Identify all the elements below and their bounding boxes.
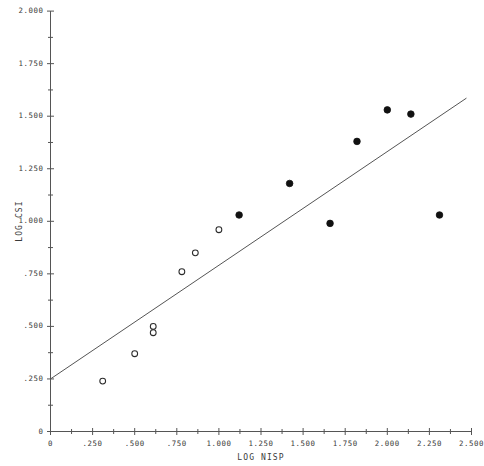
x-axis-tick-label: 2.500 <box>459 440 484 447</box>
y-axis-tick-label: 1.500 <box>19 112 44 119</box>
x-axis-tick-label: 2.000 <box>375 440 400 447</box>
y-axis-tick-label: 1.750 <box>19 60 44 67</box>
y-axis-tick-label: 1.250 <box>19 165 44 172</box>
x-axis-tick-label: 2.250 <box>417 440 442 447</box>
data-point-open <box>150 330 156 336</box>
y-axis-title: LOG CSI <box>16 201 24 242</box>
data-point-filled <box>354 138 361 145</box>
data-point-filled <box>286 180 293 187</box>
data-point-filled <box>236 212 243 219</box>
x-axis-tick-label: 1.500 <box>291 440 316 447</box>
x-axis-tick-label: .250 <box>83 440 103 447</box>
x-axis-tick-label: .750 <box>167 440 187 447</box>
y-axis-tick-label: 2.000 <box>19 7 44 14</box>
data-point-filled <box>384 107 391 114</box>
data-point-filled <box>408 111 415 118</box>
x-axis-tick-label: 1.750 <box>333 440 358 447</box>
data-point-open <box>150 324 156 330</box>
data-point-filled <box>327 220 334 227</box>
y-axis-tick-label: .250 <box>24 375 44 382</box>
data-point-open <box>179 269 185 275</box>
data-point-open <box>100 378 106 384</box>
y-axis-tick-label: .750 <box>24 270 44 277</box>
x-axis-tick-label: 1.250 <box>249 440 274 447</box>
x-axis-title: LOG NISP <box>237 454 284 462</box>
regression-line <box>51 98 467 379</box>
y-axis-tick-label: .500 <box>24 323 44 330</box>
y-axis-tick-label: 0 <box>39 428 44 435</box>
x-axis-tick-label: .500 <box>125 440 145 447</box>
data-point-filled <box>436 212 443 219</box>
x-axis-tick-label: 1.000 <box>206 440 231 447</box>
data-point-open <box>192 250 198 256</box>
data-point-open <box>216 227 222 233</box>
data-point-open <box>132 351 138 357</box>
x-axis-tick-label: 0 <box>48 440 53 447</box>
